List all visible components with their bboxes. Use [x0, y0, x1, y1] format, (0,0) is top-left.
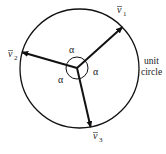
- vector-label-v3: v 3: [93, 130, 103, 144]
- svg-text:2: 2: [14, 54, 18, 62]
- svg-text:v: v: [117, 4, 122, 15]
- vector-label-v2: v 2: [8, 48, 18, 62]
- svg-text:1: 1: [123, 10, 127, 18]
- angle-label-top: α: [69, 44, 75, 55]
- unit-circle: [20, 9, 139, 128]
- vector-v1: [77, 27, 122, 68]
- angle-label-right: α: [93, 66, 99, 77]
- angle-label-left: α: [58, 74, 64, 85]
- unit-circle-label-line1: unit: [144, 56, 159, 66]
- unit-circle-label-line2: circle: [141, 67, 162, 77]
- svg-text:v: v: [93, 130, 98, 141]
- vector-label-v1: v 1: [117, 4, 127, 18]
- svg-text:v: v: [8, 48, 13, 59]
- unit-circle-diagram: v 1 v 2 v 3 α α α unit circle: [0, 0, 166, 154]
- svg-text:3: 3: [99, 136, 103, 144]
